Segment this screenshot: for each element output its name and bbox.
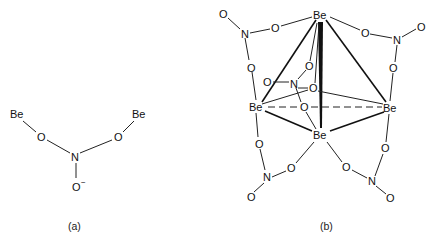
atom-tr-o2: O xyxy=(389,62,398,74)
atom-tl-n: N xyxy=(241,28,249,40)
panel-a-atoms: Be O N O Be O − xyxy=(10,108,145,193)
atom-be-left: Be xyxy=(10,108,23,120)
atom-bl-o1: O xyxy=(255,138,264,150)
atom-tr-o1: O xyxy=(361,27,370,39)
atom-c-o2: O xyxy=(309,82,318,94)
atom-be-left: Be xyxy=(249,101,262,113)
atom-c-n: N xyxy=(290,78,298,90)
atom-c-o-term: O xyxy=(263,76,272,88)
atom-be-right: Be xyxy=(383,102,396,114)
atom-br-o2: O xyxy=(381,142,390,154)
atom-o-right: O xyxy=(114,131,123,143)
caption-a: (a) xyxy=(68,220,81,232)
panel-a-bonds xyxy=(23,121,134,178)
atom-be-bottom: Be xyxy=(313,129,326,141)
figure-canvas: Be O N O Be O − (a) xyxy=(0,0,436,245)
atom-br-n: N xyxy=(368,175,376,187)
atom-bl-o-term: O xyxy=(247,191,256,203)
atom-bl-o2: O xyxy=(287,162,296,174)
atom-o-minus: O xyxy=(72,181,81,193)
atom-br-o-term: O xyxy=(386,192,395,204)
atom-n-center: N xyxy=(71,151,79,163)
caption-b: (b) xyxy=(320,220,333,232)
atom-o-left: O xyxy=(37,131,46,143)
charge-minus: − xyxy=(81,178,86,187)
atom-c-o3: O xyxy=(300,101,309,113)
atom-tr-n: N xyxy=(393,34,401,46)
bold-wedge-edge xyxy=(318,22,323,128)
atom-br-o1: O xyxy=(342,161,351,173)
atom-be-right: Be xyxy=(132,108,145,120)
atom-c-o1: O xyxy=(305,60,314,72)
atom-tl-o2: O xyxy=(247,62,256,74)
atom-tr-o-term: O xyxy=(417,21,426,33)
atom-tl-o-term: O xyxy=(219,8,228,20)
atom-tl-o1: O xyxy=(271,22,280,34)
atom-bl-n: N xyxy=(263,171,271,183)
atom-be-top: Be xyxy=(313,9,326,21)
